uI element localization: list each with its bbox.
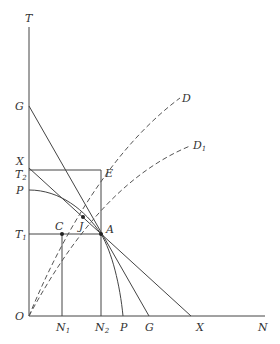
point-a	[99, 232, 103, 236]
curve-pp	[29, 190, 123, 316]
label-p-y: P	[15, 184, 24, 197]
label-t2: T2	[15, 168, 27, 182]
label-n2: N2	[94, 321, 110, 335]
label-d1: D1	[192, 139, 206, 153]
label-x-y: X	[15, 155, 25, 168]
label-c: C	[55, 220, 64, 233]
label-n-axis: N	[257, 321, 268, 334]
line-xx	[29, 168, 191, 316]
label-t1: T1	[15, 228, 27, 242]
label-p-x: P	[119, 321, 128, 334]
label-d: D	[181, 92, 191, 105]
point-j	[81, 215, 85, 219]
label-g-y: G	[15, 100, 24, 113]
label-x-x: X	[195, 321, 205, 334]
economics-diagram: T N O G X T2 P T1 N1 N2 P G X E C J A D …	[0, 0, 280, 344]
label-e: E	[104, 167, 113, 180]
label-j: J	[77, 220, 84, 233]
label-origin: O	[15, 310, 24, 323]
label-a: A	[105, 223, 114, 236]
label-n1: N1	[55, 321, 70, 335]
label-g-x: G	[145, 321, 154, 334]
label-t-axis: T	[25, 12, 34, 25]
